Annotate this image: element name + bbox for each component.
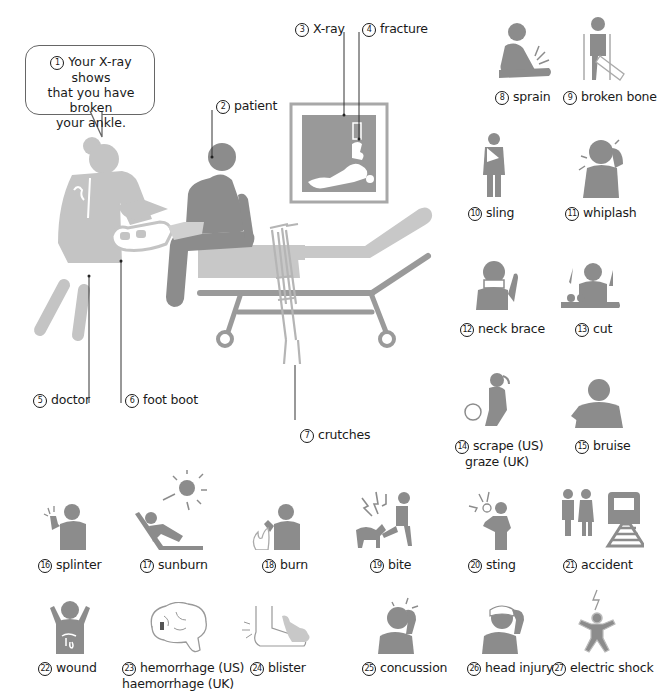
label-patient: 2patient	[216, 98, 277, 114]
icon-label-splinter: 16splinter	[38, 557, 101, 573]
icon-label-bite: 19bite	[370, 557, 411, 573]
bite-icon	[352, 490, 424, 550]
concussion-icon	[372, 596, 430, 654]
icon-label-sunburn: 17sunburn	[140, 557, 208, 573]
blister-foot-icon	[240, 604, 318, 650]
electric-shock-icon	[573, 588, 623, 654]
icon-label-blister: 24blister	[250, 660, 306, 676]
label-foot-boot: 6foot boot	[125, 392, 198, 408]
sting-icon	[463, 490, 519, 550]
burn-icon	[250, 504, 306, 550]
whiplash-icon	[575, 138, 635, 200]
icon-label-accident: 21accident	[563, 557, 633, 573]
label-number: 1	[50, 56, 64, 70]
cut-icon	[557, 262, 623, 312]
icon-label-cut: 13cut	[575, 321, 612, 337]
icon-label-neck-brace: 12neck brace	[460, 321, 545, 337]
icon-label-whiplash: 11whiplash	[565, 205, 637, 221]
head-injury-icon	[476, 596, 536, 654]
icon-label-sling: 10sling	[468, 205, 514, 221]
speech-bubble-text: 1Your X-ray shows that you have broken y…	[32, 54, 150, 130]
bruise-icon	[567, 378, 629, 430]
label-xray: 3X-ray	[295, 21, 345, 37]
hemorrhage-brain-icon	[146, 602, 210, 654]
icon-label-broken-bone: 9broken bone	[563, 89, 657, 105]
icon-label-burn: 18burn	[262, 557, 308, 573]
splinter-icon	[42, 504, 92, 550]
icon-label-sting: 20sting	[468, 557, 516, 573]
accident-icon	[558, 488, 644, 548]
icon-label-bruise: 15bruise	[575, 438, 630, 454]
sunburn-icon	[135, 470, 210, 550]
icon-label-electric-shock: 27electric shock	[552, 660, 653, 676]
neck-brace-icon	[472, 260, 524, 312]
label-doctor: 5doctor	[33, 392, 90, 408]
icon-label-sprain: 8sprain	[495, 89, 550, 105]
icon-label-scrape: 14scrape (US)graze (UK)	[455, 438, 539, 469]
label-fracture: 4fracture	[362, 21, 428, 37]
broken-bone-icon	[578, 16, 638, 82]
label-crutches: 7crutches	[300, 427, 370, 443]
icon-label-head-injury: 26head injury	[467, 660, 553, 676]
icon-label-wound: 22wound	[38, 660, 97, 676]
icon-label-hemorrhage: 23hemorrhage (US)haemorrhage (UK)	[122, 660, 232, 691]
sprain-icon	[495, 20, 555, 82]
scrape-icon	[463, 372, 527, 428]
sling-icon	[477, 132, 513, 198]
icon-label-concussion: 25concussion	[362, 660, 447, 676]
wound-icon	[46, 600, 94, 656]
